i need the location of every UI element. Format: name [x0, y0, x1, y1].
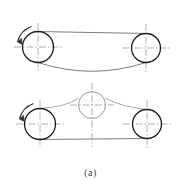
- diagram-belt-drive-without-tensioner: [14, 23, 170, 72]
- belt-over-idler-right: [105, 98, 147, 109]
- belt-taut-span-bottom: [40, 139, 147, 140]
- rotation-arrow-ccw-lower: [20, 103, 34, 121]
- engineering-figure: (a): [0, 0, 181, 192]
- rotation-arrow-ccw-upper: [18, 26, 32, 44]
- belt-slack-span-bottom: [38, 63, 146, 72]
- figure-caption: (a): [0, 167, 181, 178]
- belt-group-upper: [38, 32, 146, 72]
- belt-taut-span-top: [38, 32, 146, 34]
- diagram-belt-drive-with-tensioner: [16, 83, 171, 148]
- centerline-group-upper: [14, 23, 170, 72]
- belt-drive-diagram-svg: [0, 0, 181, 192]
- belt-over-idler-left: [40, 98, 79, 108]
